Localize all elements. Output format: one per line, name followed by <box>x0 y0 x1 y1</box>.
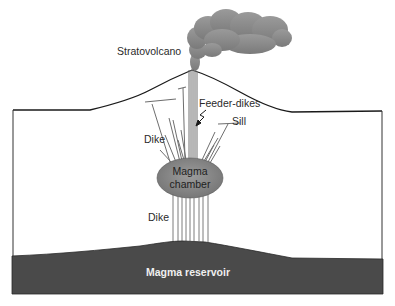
magma-reservoir-label: Magma reservoir <box>146 266 230 278</box>
feeder-dikes-label: Feeder-dikes <box>199 97 260 109</box>
magma-chamber-label-line1: Magma <box>172 165 207 177</box>
smoke-plume <box>187 9 292 71</box>
stratovolcano-label: Stratovolcano <box>117 45 181 57</box>
dike-lower-label: Dike <box>148 211 169 223</box>
volcano-diagram: Magma chamber Magma reservoir Stratovolc… <box>0 0 395 306</box>
sill-label: Sill <box>232 115 246 127</box>
dike-upper-label: Dike <box>144 133 165 145</box>
magma-chamber: Magma chamber <box>157 158 223 198</box>
magma-chamber-label-line2: chamber <box>170 178 211 190</box>
